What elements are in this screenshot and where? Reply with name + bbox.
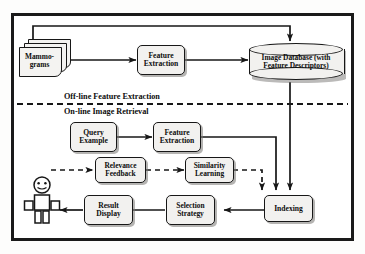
mammograms-label: Mammo- grams (19, 47, 60, 75)
node-mammograms[interactable]: Mammo- grams (18, 39, 70, 77)
user-left-arm-icon (25, 201, 34, 210)
feature-extraction-online-label: Feature Extraction (160, 129, 195, 145)
feature-extraction-offline-label: Feature Extraction (144, 52, 179, 68)
node-query-example[interactable]: Query Example (70, 122, 117, 152)
offline-phase-label: Off-line Feature Extraction (64, 92, 160, 101)
figure-diagram: Off-line Feature Extraction On-line Imag… (0, 0, 365, 254)
node-indexing[interactable]: Indexing (264, 195, 313, 222)
query-example-label: Query Example (79, 129, 108, 145)
user-right-leg-icon (43, 211, 49, 223)
node-relevance-feedback[interactable]: Relevance Feedback (95, 157, 146, 183)
similarity-learning-label: Similarity Learning (194, 162, 226, 177)
image-database-label: Image Database (with Feature Descriptors… (249, 43, 343, 80)
user-head-icon (34, 177, 50, 193)
user-torso-icon (35, 195, 50, 210)
selection-strategy-label: Selection Strategy (176, 202, 204, 217)
node-similarity-learning[interactable]: Similarity Learning (185, 157, 234, 183)
indexing-label: Indexing (274, 205, 303, 213)
relevance-feedback-label: Relevance Feedback (104, 162, 136, 177)
result-display-label: Result Display (96, 202, 120, 218)
user-left-leg-icon (35, 211, 41, 223)
node-user[interactable] (22, 176, 62, 228)
node-selection-strategy[interactable]: Selection Strategy (166, 195, 215, 225)
user-right-arm-icon (51, 201, 60, 210)
node-feature-extraction-offline[interactable]: Feature Extraction (137, 45, 185, 75)
edge-similarity-learning-to-indexing (233, 170, 262, 190)
node-result-display[interactable]: Result Display (84, 195, 133, 225)
online-phase-label: On-line Image Retrieval (64, 107, 149, 116)
node-image-database[interactable]: Image Database (with Feature Descriptors… (249, 43, 343, 80)
node-feature-extraction-online[interactable]: Feature Extraction (153, 122, 201, 152)
